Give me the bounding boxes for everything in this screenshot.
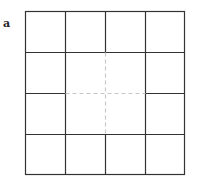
solid-grid-lines [26, 12, 185, 175]
grid-diagram [0, 0, 198, 183]
dashed-center-cross [66, 53, 146, 135]
